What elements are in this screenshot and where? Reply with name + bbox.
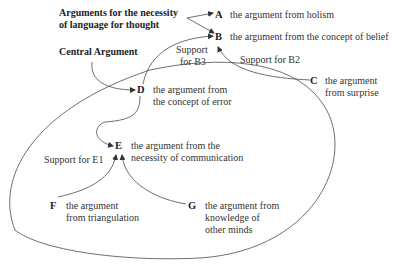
node-A-letter: A (215, 9, 223, 21)
label-support-b3-line2: for B3 (180, 56, 206, 68)
node-B-letter: B (215, 31, 222, 43)
node-F-text-line1: the argument (66, 200, 118, 212)
edge-heading-to-A (187, 13, 213, 18)
heading-necessity-line2: of language for thought (59, 19, 159, 31)
node-G-text-line3: other minds (205, 224, 253, 236)
node-D-text-line1: the argument from (153, 84, 227, 96)
node-B-text: the argument from the concept of belief (230, 31, 389, 43)
edge-heading-to-B (187, 18, 214, 33)
heading-necessity-line1: Arguments for the necessity (59, 7, 178, 19)
node-G-text-line2: knowledge of (205, 212, 260, 224)
edge-central-to-D (92, 62, 135, 90)
node-D-text-line2: the concept of error (153, 96, 232, 108)
node-C-letter: C (310, 75, 318, 87)
node-E-text-line1: the argument from the (131, 140, 220, 152)
edge-D-to-E (97, 96, 140, 146)
node-G-text-line1: the argument from (205, 200, 279, 212)
label-support-b2: Support for B2 (240, 54, 300, 66)
heading-central-argument: Central Argument (59, 46, 138, 58)
node-C-text-line1: the argument (325, 75, 377, 87)
node-A-text: the argument from holism (230, 9, 334, 21)
node-F-letter: F (50, 200, 56, 212)
node-C-text-line2: from surprise (325, 87, 379, 99)
node-E-text-line2: necessity of communication (131, 152, 243, 164)
node-G-letter: G (188, 200, 196, 212)
node-E-letter: E (115, 140, 122, 152)
label-support-b3-line1: Support (176, 44, 208, 56)
node-D-letter: D (137, 84, 145, 96)
node-F-text-line2: from triangulation (66, 212, 139, 224)
label-support-e1: Support for E1 (44, 154, 103, 166)
